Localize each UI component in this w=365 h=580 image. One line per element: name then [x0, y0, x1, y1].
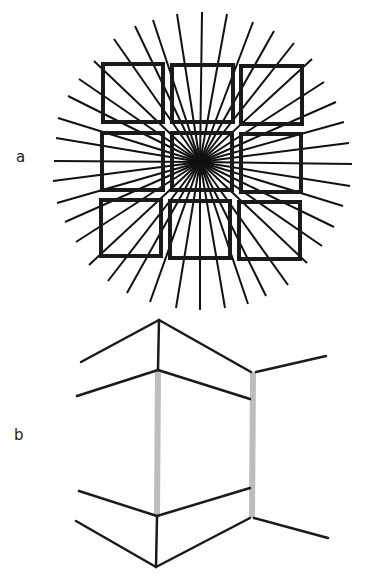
edge-line — [81, 320, 159, 362]
left-gray-bar — [157, 371, 158, 516]
edge-line — [79, 491, 157, 516]
black-line-segments — [76, 320, 328, 567]
panel-label-a: a — [16, 150, 25, 165]
edge-line — [254, 518, 328, 538]
edge-line — [159, 320, 251, 372]
ray-line — [114, 39, 200, 162]
ray-line — [150, 162, 200, 302]
edge-line — [156, 518, 250, 567]
panel-a-radial-grid — [53, 12, 352, 310]
ray-line — [54, 161, 200, 162]
edge-line — [76, 521, 156, 567]
gray-vertical-bars — [157, 371, 253, 518]
edge-line — [158, 320, 159, 370]
right-gray-bar — [252, 372, 253, 518]
ray-line — [200, 162, 288, 285]
ray-line — [68, 96, 200, 162]
panel-label-b: b — [14, 428, 24, 443]
edge-line — [256, 356, 326, 372]
ray-line — [200, 162, 225, 308]
illusion-figure — [0, 0, 365, 580]
edge-line — [77, 370, 158, 396]
square-top-center — [172, 65, 233, 122]
ray-line — [200, 162, 352, 164]
square-top-left — [103, 64, 163, 122]
edge-line — [158, 370, 250, 399]
panel-b-perspective-corners — [76, 320, 328, 567]
edge-line — [156, 517, 157, 567]
ray-line — [108, 162, 200, 281]
ray-line — [200, 43, 294, 162]
ray-line — [200, 12, 202, 162]
ray-line — [200, 22, 253, 162]
edge-line — [157, 488, 250, 516]
ray-line — [58, 118, 200, 162]
radiating-rays — [53, 12, 352, 310]
